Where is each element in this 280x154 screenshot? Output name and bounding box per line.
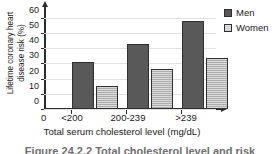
x-axis-origin-label: 0: [41, 113, 46, 123]
y-tick-mark-20: [41, 79, 45, 80]
y-tick-label-40: 40: [29, 36, 39, 45]
legend-item-men[interactable]: Men: [224, 6, 269, 19]
y-tick-label-20: 20: [29, 66, 39, 75]
bar-group-1: [127, 10, 175, 109]
x-tick-label-2: >239: [175, 113, 196, 123]
legend-label-women: Women: [236, 23, 269, 33]
bar-women-1[interactable]: [151, 69, 173, 109]
bar-group-2: [182, 10, 230, 109]
figure-caption-text: Figure 24.2.2 Total cholesterol level an…: [0, 145, 280, 154]
chart-legend: Men Women: [224, 6, 269, 36]
bar-women-0[interactable]: [96, 86, 118, 109]
x-axis-title: Total serum cholesterol level (mg/dL): [0, 126, 244, 137]
bar-group-0: [72, 10, 120, 109]
y-axis-arrow-icon: [42, 1, 48, 7]
figure-bar-chart: Lifetime coronary heart disease risk (%)…: [0, 0, 280, 154]
bar-men-0[interactable]: [72, 62, 94, 109]
y-tick-label-60: 60: [29, 5, 39, 14]
plot-area: 0 10 20 30 40 50 60: [44, 11, 216, 110]
y-tick-label-30: 30: [29, 51, 39, 60]
y-tick-mark-30: [41, 63, 45, 64]
y-tick-mark-50: [41, 33, 45, 34]
y-axis-title-line-2: disease risk (%): [17, 3, 28, 103]
x-tick-label-0: <200: [61, 113, 82, 123]
legend-label-men: Men: [236, 8, 254, 18]
y-tick-mark-0: [41, 109, 45, 110]
bar-men-1[interactable]: [127, 44, 149, 109]
y-tick-mark-40: [41, 48, 45, 49]
men-swatch-icon: [224, 9, 232, 17]
y-tick-mark-60: [41, 18, 45, 19]
women-swatch-icon: [224, 24, 232, 32]
y-tick-label-10: 10: [29, 81, 39, 90]
y-tick-mark-10: [41, 94, 45, 95]
bar-men-2[interactable]: [182, 21, 204, 109]
legend-item-women[interactable]: Women: [224, 21, 269, 34]
y-tick-label-50: 50: [29, 20, 39, 29]
y-tick-label-0: 0: [34, 97, 39, 106]
x-tick-label-1: 200-239: [111, 113, 146, 123]
figure-caption: Figure 24.2.2 Total cholesterol level an…: [0, 145, 280, 154]
bar-women-2[interactable]: [206, 58, 228, 109]
y-axis-title-line-1: Lifetime coronary heart: [6, 3, 17, 103]
gridline-0: [44, 109, 216, 110]
